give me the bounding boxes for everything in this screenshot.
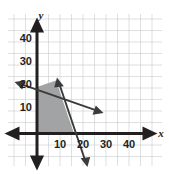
y-tick-label-20: 20 bbox=[20, 78, 32, 90]
x-tick-label-30: 30 bbox=[100, 138, 112, 150]
x-tick-label-40: 40 bbox=[123, 138, 135, 150]
y-tick-label-10: 10 bbox=[20, 101, 32, 113]
x-tick-label-20: 20 bbox=[77, 138, 89, 150]
y-tick-label-30: 30 bbox=[20, 55, 32, 67]
graph-svg: 40 30 20 10 10 20 30 40 y x bbox=[0, 0, 169, 174]
y-tick-label-40: 40 bbox=[20, 32, 32, 44]
x-axis-label: x bbox=[157, 127, 164, 139]
y-axis-label: y bbox=[37, 9, 44, 21]
coordinate-graph-figure: 40 30 20 10 10 20 30 40 y x bbox=[0, 0, 169, 174]
x-tick-label-10: 10 bbox=[54, 138, 66, 150]
shaded-feasible-region bbox=[37, 81, 74, 134]
